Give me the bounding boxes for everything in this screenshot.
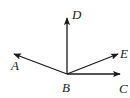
label-e: E xyxy=(119,46,128,61)
rays-diagram: D A E C B xyxy=(0,0,130,98)
ray-ba xyxy=(14,54,67,74)
label-b: B xyxy=(62,80,70,95)
label-d: D xyxy=(71,7,82,22)
ray-be xyxy=(67,54,118,74)
label-a: A xyxy=(10,58,19,73)
label-c: C xyxy=(119,81,128,96)
